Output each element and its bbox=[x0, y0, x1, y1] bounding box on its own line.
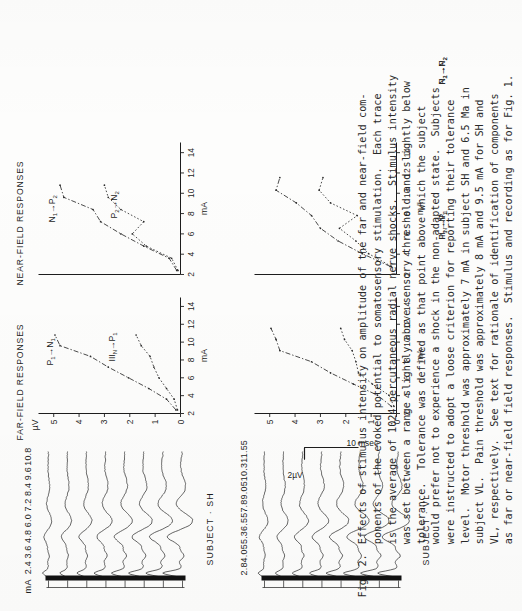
series-label: IIIN→P1 bbox=[106, 331, 117, 361]
x-tick-label: 14 bbox=[185, 301, 195, 311]
waveform-trace bbox=[162, 451, 192, 579]
data-point bbox=[270, 327, 272, 329]
chart-sh_far_field: 2468101214mA012345µVP1→N1IIIN→P1 bbox=[28, 291, 210, 439]
data-point bbox=[135, 334, 137, 336]
trace-intensity-label: 10.3 bbox=[238, 462, 248, 480]
caption-line: subject VL. Pain threshold was approxima… bbox=[472, 11, 487, 544]
data-point bbox=[310, 360, 312, 362]
data-point bbox=[54, 334, 56, 336]
caption-line: was set between a range slightly above s… bbox=[399, 11, 414, 544]
x-tick-label: 4 bbox=[185, 251, 195, 256]
caption-line: would prefer not to experience a shock i… bbox=[428, 11, 443, 544]
x-tick-label: 8 bbox=[185, 210, 195, 215]
y-tick-label: 1 bbox=[150, 419, 160, 424]
x-tick-label: 2 bbox=[185, 410, 195, 415]
svg-text:N1→P2: N1→P2 bbox=[46, 194, 57, 222]
trace-intensity-label: 6.0 bbox=[22, 512, 32, 528]
y-tick-label: 3 bbox=[99, 419, 109, 424]
figure-page: FAR-FIELD RESPONSES NEAR-FIELD RESPONSES… bbox=[0, 0, 522, 611]
waveform-trace bbox=[145, 451, 172, 579]
waveform-trace bbox=[76, 451, 91, 579]
series-label: P2→N2 bbox=[108, 190, 119, 218]
waveform-panel-sh: mA 2.43.64.86.07.28.49.610.8 SUBJECT · S… bbox=[22, 447, 220, 593]
figure-number: Fig. 2. bbox=[355, 554, 370, 597]
svg-text:P1→N1: P1→N1 bbox=[44, 337, 55, 365]
caption-line: level. Motor threshold was approximately… bbox=[458, 11, 473, 544]
y-tick-label: 5 bbox=[264, 419, 274, 424]
y-tick-label: 3 bbox=[315, 419, 325, 424]
y-tick-label: 0 bbox=[175, 419, 185, 424]
trace-intensity-label: 7.2 bbox=[22, 497, 32, 513]
data-point bbox=[329, 202, 331, 204]
data-point bbox=[89, 355, 91, 357]
x-tick-label: 12 bbox=[185, 167, 195, 177]
trace-intensity-label: 2.4 bbox=[22, 559, 32, 575]
figure-number-value: 2. bbox=[356, 554, 367, 566]
waveform-trace bbox=[275, 451, 288, 579]
x-tick-label: 6 bbox=[185, 375, 195, 380]
y-tick-label: 5 bbox=[48, 419, 58, 424]
scalebar-amplitude-label: 2µV bbox=[287, 469, 302, 479]
caption-line: ponents of the evoked potential to somat… bbox=[370, 11, 385, 544]
data-point bbox=[168, 257, 170, 259]
figure-caption: Fig. 2. Effects of stimulus intensity on… bbox=[355, 11, 516, 597]
x-tick-label: 12 bbox=[185, 319, 195, 329]
data-point bbox=[103, 184, 105, 186]
trace-intensity-label: 4.8 bbox=[22, 528, 32, 544]
data-point bbox=[339, 327, 341, 329]
data-point bbox=[107, 366, 109, 368]
waveform-trace bbox=[326, 451, 349, 579]
trace-intensity-labels-vl: 2.84.055.36.557.89.0510.311.55 bbox=[238, 447, 248, 575]
data-point bbox=[131, 233, 133, 235]
waveform-trace bbox=[94, 451, 112, 579]
trace-intensity-label: 10.8 bbox=[22, 447, 32, 465]
data-point bbox=[329, 372, 331, 374]
trace-intensity-label: 7.8 bbox=[238, 499, 248, 512]
trace-intensity-label: 4.05 bbox=[238, 544, 248, 562]
trace-intensity-label: 5.3 bbox=[238, 530, 248, 543]
trace-intensity-label: 8.4 bbox=[22, 481, 32, 497]
x-tick-label: 4 bbox=[185, 392, 195, 397]
data-point bbox=[351, 349, 353, 351]
stimulus-artifact-bar bbox=[45, 575, 185, 580]
data-point bbox=[158, 376, 160, 378]
caption-line: is the average of 1024 percutaneous radi… bbox=[385, 11, 400, 544]
trace-intensity-label: 11.55 bbox=[238, 439, 248, 462]
y-axis-unit-label: µV bbox=[29, 419, 39, 430]
data-point bbox=[165, 398, 167, 400]
near-field-title: NEAR-FIELD RESPONSES bbox=[14, 160, 24, 285]
x-tick-label: 6 bbox=[185, 231, 195, 236]
subject-label-sh: SUBJECT · SH bbox=[204, 492, 214, 565]
x-tick-label: 14 bbox=[185, 147, 195, 157]
ma-header-sh: mA bbox=[22, 579, 32, 593]
series-label: N1→P2 bbox=[46, 194, 57, 222]
caption-line: Effects of stimulus intensity on amplitu… bbox=[355, 11, 370, 544]
waveform-trace bbox=[59, 451, 71, 579]
y-tick-label: 2 bbox=[124, 419, 134, 424]
x-tick-label: 2 bbox=[185, 271, 195, 276]
x-axis-label: mA bbox=[198, 201, 208, 214]
svg-text:IIIN→P1: IIIN→P1 bbox=[106, 331, 117, 361]
waveform-traces-sh bbox=[40, 447, 218, 593]
waveform-trace bbox=[111, 451, 132, 579]
caption-line: were instructed to adopt a loose criteri… bbox=[443, 11, 458, 544]
trace-intensity-label: 3.6 bbox=[22, 544, 32, 560]
y-tick-label: 2 bbox=[340, 419, 350, 424]
trace-intensity-label: 6.55 bbox=[238, 512, 248, 530]
waveform-trace bbox=[309, 451, 328, 579]
caption-line: tolerance. Tolerance was defined as that… bbox=[414, 11, 429, 544]
y-tick-label: 4 bbox=[74, 419, 84, 424]
far-field-title: FAR-FIELD RESPONSES bbox=[14, 323, 24, 440]
trace-intensity-label: 2.8 bbox=[238, 562, 248, 575]
data-point bbox=[142, 220, 144, 222]
data-point bbox=[279, 176, 281, 178]
series-label: P1→N1 bbox=[44, 337, 55, 365]
chart-sh-near-field: 2468101214mAN1→P2P2→N2 bbox=[28, 136, 210, 284]
trace-intensity-label: 9.6 bbox=[22, 465, 32, 481]
svg-text:P2→N2: P2→N2 bbox=[108, 190, 119, 218]
trace-intensity-label: 9.05 bbox=[238, 481, 248, 499]
chart-sh-far-field: 2468101214mA012345µVP1→N1IIIN→P1 bbox=[28, 291, 210, 439]
x-axis-label: mA bbox=[198, 348, 208, 361]
data-point bbox=[59, 184, 61, 186]
waveform-trace bbox=[42, 451, 51, 579]
